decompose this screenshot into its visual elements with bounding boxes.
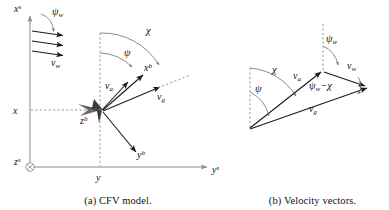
velocity-vectors-diagram: χ ψ ψw ψw−χ va vw vg (236, 0, 389, 186)
x-b-axis-label: xb (143, 62, 152, 73)
y-position-label: y (95, 172, 101, 183)
cfv-model-diagram: xs ys zs x y ψw vw ψ χ xb yb zb va vg (0, 0, 236, 186)
wind-arrow-1 (32, 31, 63, 36)
z-s-circled-cross-icon (26, 163, 34, 171)
psi-arc (250, 92, 269, 116)
panel-cfv-model: xs ys zs x y ψw vw ψ χ xb yb zb va vg (a… (0, 0, 236, 210)
x-s-axis-label: xs (13, 3, 21, 14)
psi-w-minus-chi-angle-label: ψw−χ (309, 80, 332, 93)
chi-angle-label: χ (145, 25, 151, 36)
y-b-axis-label: yb (136, 149, 145, 160)
psi-w-arc (323, 46, 338, 65)
psi-angle-label: ψ (124, 47, 131, 58)
z-s-axis-label: zs (13, 156, 21, 167)
wind-arrow-2 (32, 41, 63, 46)
y-b-axis-arrow (103, 112, 136, 152)
v-g-vector-label: vg (157, 91, 165, 104)
psi-w-angle-label: ψw (326, 33, 338, 46)
wind-arrow-3 (32, 51, 63, 56)
v-a-vector-label: va (293, 70, 301, 83)
figure-two-panel: xs ys zs x y ψw vw ψ χ xb yb zb va vg (a… (0, 0, 389, 210)
psi-angle-label: ψ (255, 83, 262, 94)
panel-b-caption: (b) Velocity vectors. (236, 195, 389, 206)
x-position-label: x (12, 105, 18, 116)
panel-velocity-vectors: χ ψ ψw ψw−χ va vw vg (b) Velocity vector… (236, 0, 389, 210)
v-g-extension-guide (158, 75, 190, 88)
v-w-vector-label: vw (51, 57, 60, 70)
v-w-vector-label: vw (347, 60, 356, 73)
chi-angle-label: χ (271, 64, 277, 75)
panel-a-caption: (a) CFV model. (0, 195, 236, 206)
v-a-vector-label: va (105, 80, 113, 93)
v-g-vector-label: vg (309, 103, 317, 116)
y-s-axis-label: ys (211, 164, 219, 175)
psi-w-angle-label: ψw (52, 6, 64, 19)
z-b-axis-label: zb (79, 115, 88, 126)
